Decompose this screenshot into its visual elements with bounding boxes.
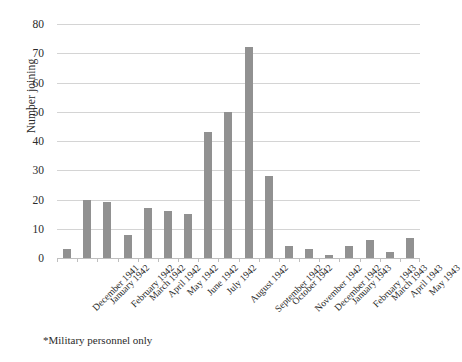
plot-area xyxy=(57,24,420,258)
bars-layer xyxy=(57,24,420,258)
y-axis-tick-label: 60 xyxy=(33,77,45,89)
y-axis-tick-label: 40 xyxy=(33,135,45,147)
bar xyxy=(305,249,313,258)
bar xyxy=(184,214,192,258)
y-axis-tick-label: 30 xyxy=(33,164,45,176)
bar xyxy=(63,249,71,258)
bar xyxy=(83,200,91,259)
bar xyxy=(285,246,293,258)
bar xyxy=(144,208,152,258)
bar xyxy=(204,132,212,258)
bar xyxy=(103,202,111,258)
x-axis-tick-labels: December 1941January 1942February 1942Ma… xyxy=(57,262,420,332)
chart-footnote: *Military personnel only xyxy=(43,334,152,346)
bar xyxy=(124,235,132,258)
bar xyxy=(406,238,414,258)
bar xyxy=(224,112,232,258)
bar xyxy=(265,176,273,258)
y-axis-tick-labels: 01020304050607080 xyxy=(0,24,50,258)
y-axis-tick-label: 0 xyxy=(38,252,44,264)
y-axis-tick-label: 80 xyxy=(33,18,45,30)
y-axis-tick-label: 50 xyxy=(33,106,45,118)
bar xyxy=(366,240,374,258)
bar xyxy=(245,47,253,258)
y-axis-tick-label: 10 xyxy=(33,223,45,235)
bar xyxy=(164,211,172,258)
y-axis-tick-label: 70 xyxy=(33,47,45,59)
y-axis-tick-label: 20 xyxy=(33,194,45,206)
bar xyxy=(345,246,353,258)
